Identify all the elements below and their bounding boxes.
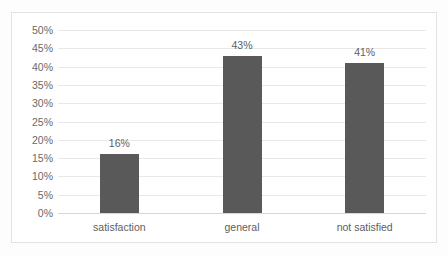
y-axis-tick-labels: 0%5%10%15%20%25%30%35%40%45%50% <box>12 30 53 213</box>
y-axis-tick-label: 20% <box>13 135 53 146</box>
y-axis-tick-label: 10% <box>13 171 53 182</box>
y-axis-tick-label: 30% <box>13 98 53 109</box>
y-axis-tick-label: 50% <box>13 25 53 36</box>
gridline <box>58 30 426 31</box>
y-axis-tick-label: 5% <box>13 189 53 200</box>
y-axis-tick-label: 35% <box>13 80 53 91</box>
x-axis-category-labels: satisfactiongeneralnot satisfied <box>58 218 426 240</box>
y-axis-tick-label: 45% <box>13 43 53 54</box>
x-axis-category-label: general <box>181 222 304 233</box>
y-axis-tick-label: 0% <box>13 208 53 219</box>
bar-value-label: 41% <box>335 47 395 58</box>
bar-value-label: 43% <box>212 40 272 51</box>
plot-area: 16%43%41% <box>58 30 426 213</box>
bar <box>100 154 139 213</box>
bar-value-label: 16% <box>89 138 149 149</box>
bar <box>345 63 384 213</box>
y-axis-tick-label: 25% <box>13 116 53 127</box>
y-axis-tick-label: 40% <box>13 61 53 72</box>
x-axis-category-label: satisfaction <box>58 222 181 233</box>
y-axis-tick-label: 15% <box>13 153 53 164</box>
bar-chart-figure: 0%5%10%15%20%25%30%35%40%45%50% 16%43%41… <box>11 12 437 243</box>
bar <box>223 56 262 213</box>
axis-baseline <box>58 213 426 214</box>
x-axis-category-label: not satisfied <box>303 222 426 233</box>
